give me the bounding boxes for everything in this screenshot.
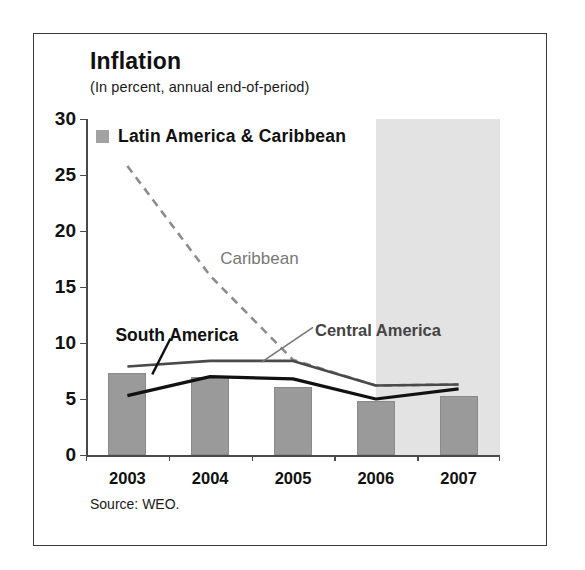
chart-figure: Inflation (In percent, annual end-of-per… bbox=[33, 33, 547, 546]
y-tick-label-20: 20 bbox=[55, 220, 76, 242]
x-tick-label-2006: 2006 bbox=[357, 469, 394, 488]
series-label-caribbean: Caribbean bbox=[220, 249, 298, 269]
line-central-america bbox=[127, 361, 458, 386]
x-tick-label-2003: 2003 bbox=[109, 469, 146, 488]
plot-area: 051015202530 20032004200520062007 Caribb… bbox=[86, 119, 500, 455]
x-tick-2007 bbox=[417, 455, 418, 461]
line-caribbean bbox=[127, 166, 458, 386]
line-south-america bbox=[127, 377, 458, 399]
y-tick-label-5: 5 bbox=[65, 388, 76, 410]
y-tick-label-30: 30 bbox=[55, 108, 76, 130]
x-tick-2003 bbox=[86, 455, 87, 461]
x-tick-label-2005: 2005 bbox=[275, 469, 312, 488]
y-tick-label-0: 0 bbox=[65, 444, 76, 466]
y-tick-label-10: 10 bbox=[55, 332, 76, 354]
x-axis bbox=[86, 455, 500, 457]
x-tick-end bbox=[499, 455, 500, 461]
chart-title: Inflation bbox=[90, 48, 181, 75]
series-label-south-america: South America bbox=[115, 325, 238, 346]
x-tick-label-2004: 2004 bbox=[192, 469, 229, 488]
x-tick-label-2007: 2007 bbox=[440, 469, 477, 488]
chart-subtitle: (In percent, annual end-of-period) bbox=[90, 79, 309, 95]
line-series-group bbox=[86, 119, 500, 455]
series-label-central-america: Central America bbox=[315, 321, 441, 340]
y-tick-label-15: 15 bbox=[55, 276, 76, 298]
x-tick-2006 bbox=[334, 455, 335, 461]
source-note: Source: WEO. bbox=[90, 496, 179, 512]
leader-line-central-america bbox=[262, 327, 313, 362]
x-tick-2004 bbox=[169, 455, 170, 461]
y-tick-label-25: 25 bbox=[55, 164, 76, 186]
x-tick-2005 bbox=[252, 455, 253, 461]
